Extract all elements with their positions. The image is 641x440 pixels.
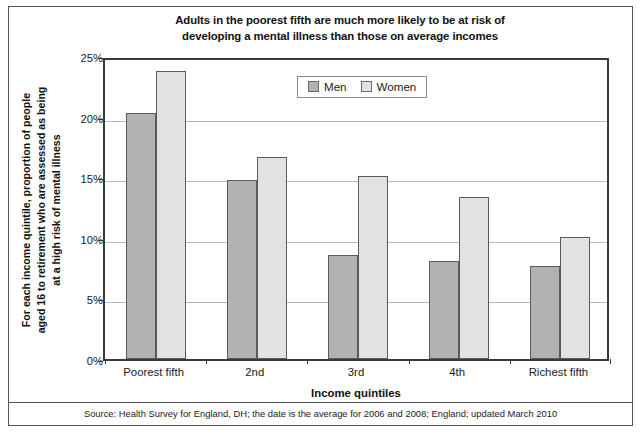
bar-men-5 bbox=[530, 266, 560, 359]
chart-legend: MenWomen bbox=[297, 76, 427, 98]
x-axis-tick-mark bbox=[409, 359, 410, 364]
legend-item-women[interactable]: Women bbox=[361, 80, 417, 93]
x-axis-tick-label: 3rd bbox=[348, 366, 364, 378]
x-axis-tick-mark bbox=[307, 359, 308, 364]
x-axis-tick-label: Richest fifth bbox=[529, 366, 589, 378]
y-axis: 0%5%10%15%20%25% bbox=[47, 58, 103, 361]
x-axis-title: Income quintiles bbox=[103, 387, 609, 399]
chart-title-line-1: Adults in the poorest fifth are much mor… bbox=[90, 12, 590, 28]
y-axis-tick-label: 25% bbox=[57, 52, 103, 64]
x-axis-tick-label: 2nd bbox=[245, 366, 264, 378]
x-axis-tick-mark bbox=[610, 359, 611, 364]
bar-women-1 bbox=[156, 71, 186, 359]
bar-women-4 bbox=[459, 197, 489, 359]
y-axis-tick-label: 0% bbox=[57, 355, 103, 367]
chart-figure: Adults in the poorest fifth are much mor… bbox=[0, 0, 641, 440]
bar-men-2 bbox=[227, 180, 257, 359]
source-note: Source: Health Survey for England, DH; t… bbox=[9, 407, 632, 421]
bar-women-5 bbox=[560, 237, 590, 359]
x-axis-tick-mark bbox=[510, 359, 511, 364]
legend-swatch-women bbox=[361, 81, 372, 92]
legend-item-men[interactable]: Men bbox=[308, 80, 347, 93]
bar-men-1 bbox=[126, 113, 156, 359]
x-axis-tick-mark bbox=[206, 359, 207, 364]
bar-men-4 bbox=[429, 261, 459, 359]
legend-swatch-men bbox=[308, 81, 319, 92]
bar-women-3 bbox=[358, 176, 388, 359]
y-axis-tick-mark bbox=[98, 361, 103, 362]
bar-men-3 bbox=[328, 255, 358, 359]
chart-title-line-2: developing a mental illness than those o… bbox=[90, 28, 590, 44]
legend-label-women: Women bbox=[377, 80, 417, 93]
source-divider bbox=[9, 402, 632, 403]
plot-area bbox=[103, 58, 609, 361]
x-axis-tick-mark bbox=[105, 359, 106, 364]
legend-label-men: Men bbox=[324, 80, 347, 93]
y-axis-tick-label: 20% bbox=[57, 113, 103, 125]
y-axis-tick-label: 5% bbox=[57, 294, 103, 306]
chart-title: Adults in the poorest fifth are much mor… bbox=[90, 12, 590, 44]
y-axis-title-line-1: For each income quintile, proportion of … bbox=[19, 55, 34, 365]
x-axis-tick-label: Poorest fifth bbox=[123, 366, 184, 378]
y-axis-tick-label: 15% bbox=[57, 173, 103, 185]
y-axis-tick-label: 10% bbox=[57, 234, 103, 246]
x-axis-tick-label: 4th bbox=[449, 366, 465, 378]
bar-women-2 bbox=[257, 157, 287, 359]
